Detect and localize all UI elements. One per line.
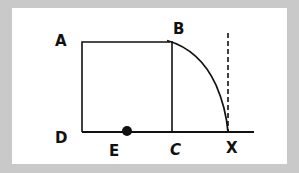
label-e: E xyxy=(109,142,119,160)
point-e-dot xyxy=(122,126,132,136)
label-x: X xyxy=(226,139,238,157)
geometry-diagram: A B C D E X xyxy=(0,0,299,173)
label-d: D xyxy=(55,129,67,147)
label-a: A xyxy=(55,32,67,50)
arc-bx xyxy=(167,41,228,133)
label-b: B xyxy=(173,20,184,38)
label-c: C xyxy=(170,141,181,159)
square-top-left-sides xyxy=(82,42,170,132)
